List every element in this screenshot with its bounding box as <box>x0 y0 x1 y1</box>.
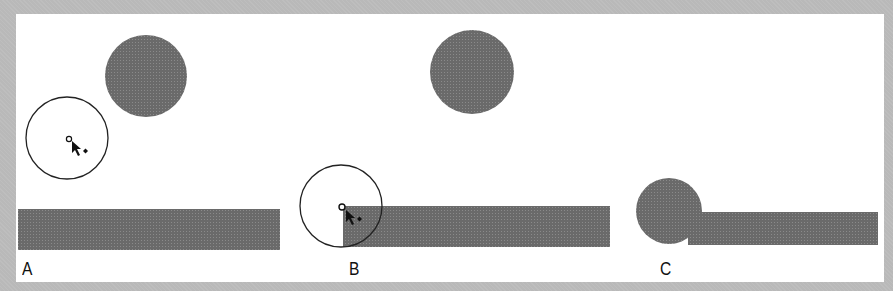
panel-c <box>636 178 878 245</box>
rectangle <box>343 206 610 247</box>
rectangle <box>688 212 878 245</box>
filled-circle <box>105 35 187 117</box>
panel-label-c: C <box>660 258 671 280</box>
panel-a <box>18 35 280 250</box>
figure-canvas <box>0 0 893 291</box>
panel-label-b: B <box>349 258 359 280</box>
panel-b <box>300 30 610 247</box>
panel-label-a: A <box>22 258 32 280</box>
filled-circle <box>636 178 702 244</box>
filled-circle <box>430 30 514 114</box>
rectangle <box>18 209 280 250</box>
cursor-icon <box>66 136 88 156</box>
